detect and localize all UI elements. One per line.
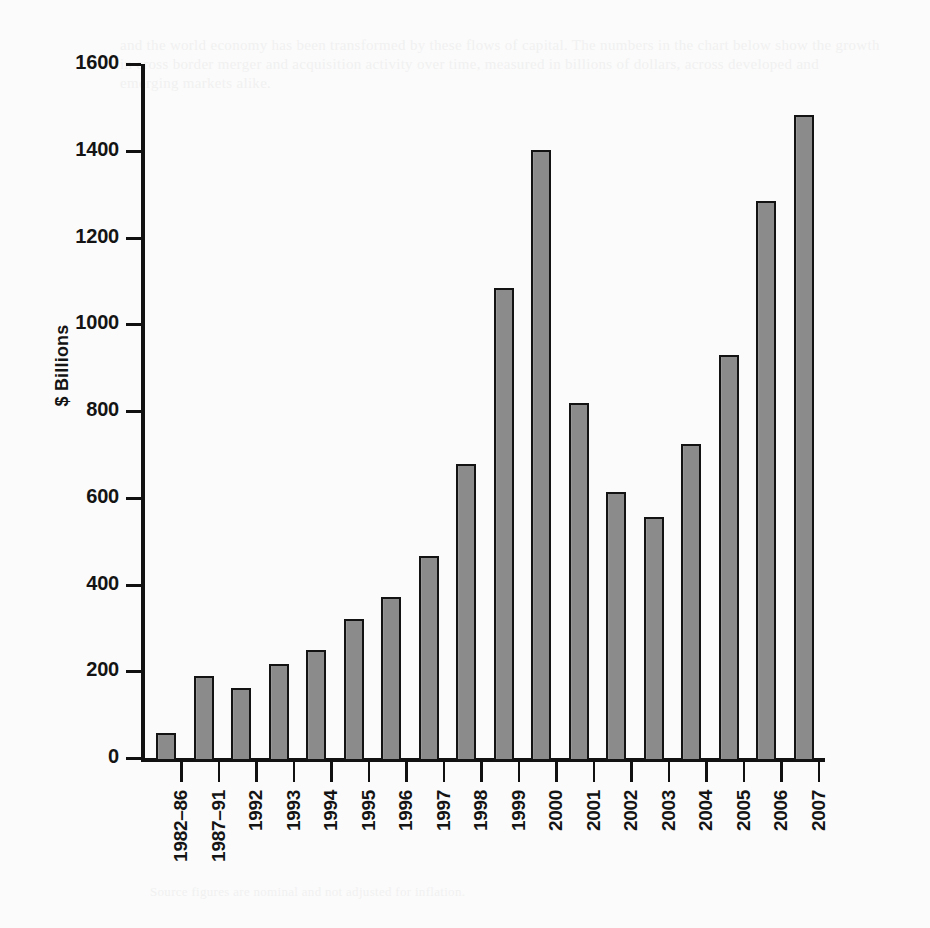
x-tick-mark xyxy=(218,762,221,782)
bar xyxy=(419,556,439,761)
x-tick-mark xyxy=(368,762,371,782)
bar-slot xyxy=(606,64,626,761)
x-tick-label: 2001 xyxy=(583,790,605,831)
x-tick-mark xyxy=(705,762,708,782)
x-tick-label: 1997 xyxy=(433,790,455,831)
bar-slot xyxy=(794,64,814,761)
x-tick-label: 2007 xyxy=(808,790,830,831)
bar-slot xyxy=(231,64,251,761)
x-tick-mark xyxy=(443,762,446,782)
x-tick-label: 2004 xyxy=(695,790,717,831)
x-tick-mark xyxy=(480,762,483,782)
background-bleed-text-bottom: Source figures are nominal and not adjus… xyxy=(150,882,850,901)
bar-slot xyxy=(269,64,289,761)
bar xyxy=(456,464,476,761)
x-tick-label: 2006 xyxy=(770,790,792,831)
bar xyxy=(306,650,326,761)
y-tick-label: 1400 xyxy=(75,138,119,161)
x-tick-label: 2005 xyxy=(733,790,755,831)
bar xyxy=(569,403,589,761)
bar xyxy=(606,492,626,761)
x-tick-label: 1996 xyxy=(395,790,417,831)
x-tick-label: 1995 xyxy=(358,790,380,831)
y-tick-label: 400 xyxy=(86,572,119,595)
x-tick-mark xyxy=(180,762,183,782)
y-tick-mark xyxy=(126,757,141,760)
bar-slot xyxy=(644,64,664,761)
bar-slot xyxy=(681,64,701,761)
bar-slot xyxy=(306,64,326,761)
y-tick-mark xyxy=(126,323,141,326)
x-tick-label: 1993 xyxy=(283,790,305,831)
bar xyxy=(231,688,251,761)
x-tick-mark xyxy=(555,762,558,782)
bar-slot xyxy=(344,64,364,761)
bar xyxy=(531,150,551,761)
bar-slot xyxy=(719,64,739,761)
bar-slot xyxy=(381,64,401,761)
bar xyxy=(794,115,814,761)
bar-slot xyxy=(756,64,776,761)
x-tick-label: 2003 xyxy=(658,790,680,831)
y-tick-label: 200 xyxy=(86,658,119,681)
y-tick-mark xyxy=(126,237,141,240)
x-tick-mark xyxy=(780,762,783,782)
x-tick-label: 1994 xyxy=(320,790,342,831)
bar xyxy=(269,664,289,761)
y-tick-label: 1000 xyxy=(75,311,119,334)
x-tick-label: 1992 xyxy=(245,790,267,831)
bar xyxy=(344,619,364,761)
bar xyxy=(756,201,776,761)
x-tick-mark xyxy=(405,762,408,782)
bar-slot xyxy=(156,64,176,761)
bar xyxy=(381,597,401,761)
bar xyxy=(194,676,214,761)
x-tick-label: 2000 xyxy=(545,790,567,831)
y-tick-mark xyxy=(126,410,141,413)
bar-slot xyxy=(531,64,551,761)
x-tick-label: 1987–91 xyxy=(208,790,230,862)
x-tick-mark xyxy=(518,762,521,782)
plot-area: 02004006008001000120014001600 1982–86198… xyxy=(141,64,831,764)
bar-slot xyxy=(456,64,476,761)
y-tick-label: 600 xyxy=(86,485,119,508)
x-tick-mark xyxy=(255,762,258,782)
x-tick-label: 1999 xyxy=(508,790,530,831)
bar-slot xyxy=(569,64,589,761)
x-tick-label: 1982–86 xyxy=(170,790,192,862)
x-tick-mark xyxy=(668,762,671,782)
x-tick-mark xyxy=(293,762,296,782)
bar xyxy=(644,517,664,761)
y-tick-mark xyxy=(126,670,141,673)
y-tick-label: 800 xyxy=(86,398,119,421)
bar-slot xyxy=(419,64,439,761)
bar-slot xyxy=(494,64,514,761)
bar-slot xyxy=(194,64,214,761)
y-tick-label: 1600 xyxy=(75,51,119,74)
x-tick-mark xyxy=(593,762,596,782)
y-axis-label: $ Billions xyxy=(52,296,73,436)
bar xyxy=(156,733,176,761)
bar-chart-figure: and the world economy has been transform… xyxy=(0,0,930,928)
bar xyxy=(719,355,739,761)
x-tick-mark xyxy=(743,762,746,782)
x-tick-mark xyxy=(630,762,633,782)
x-tick-label: 2002 xyxy=(620,790,642,831)
y-tick-mark xyxy=(126,63,141,66)
y-tick-mark xyxy=(126,150,141,153)
x-tick-mark xyxy=(818,762,821,782)
y-tick-mark xyxy=(126,584,141,587)
y-tick-label: 0 xyxy=(108,745,119,768)
x-tick-label: 1998 xyxy=(470,790,492,831)
y-tick-mark xyxy=(126,497,141,500)
x-tick-mark xyxy=(330,762,333,782)
bar xyxy=(494,288,514,761)
bar xyxy=(681,444,701,762)
y-tick-label: 1200 xyxy=(75,225,119,248)
bar-series xyxy=(145,64,831,761)
